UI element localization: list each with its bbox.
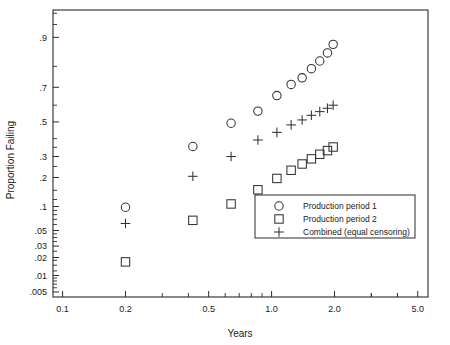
data-point-plus <box>286 120 296 130</box>
y-tick-label: .03 <box>34 241 47 251</box>
y-tick-label: .5 <box>39 117 47 127</box>
y-tick-label: .01 <box>34 271 47 281</box>
probability-plot-figure: 0.10.20.51.02.05.0.9.7.5.3.2.1.05.03.02.… <box>0 0 450 345</box>
data-point-square <box>121 258 129 266</box>
data-point-square <box>329 143 337 151</box>
y-tick-label: .005 <box>29 287 47 297</box>
data-point-square <box>273 174 281 182</box>
y-tick-label: .9 <box>39 33 47 43</box>
data-point-square <box>323 146 331 154</box>
data-point-circle <box>316 57 324 65</box>
y-tick-label: .02 <box>34 253 47 263</box>
data-point-square <box>287 166 295 174</box>
data-point-circle <box>307 64 315 72</box>
y-tick-label: .05 <box>34 226 47 236</box>
data-point-plus <box>226 152 236 162</box>
x-tick-label: 5.0 <box>411 304 424 314</box>
legend-label: Production period 2 <box>303 214 377 224</box>
data-point-square <box>307 155 315 163</box>
data-point-circle <box>189 142 197 150</box>
data-point-circle <box>298 74 306 82</box>
data-point-circle <box>323 49 331 57</box>
data-point-plus <box>121 219 131 229</box>
data-point-square <box>189 216 197 224</box>
x-tick-label: 0.1 <box>56 304 69 314</box>
data-point-square <box>254 186 262 194</box>
axis-layer: 0.10.20.51.02.05.0.9.7.5.3.2.1.05.03.02.… <box>29 10 428 314</box>
data-point-circle <box>121 203 129 211</box>
y-tick-label: .3 <box>39 152 47 162</box>
x-tick-label: 1.0 <box>265 304 278 314</box>
y-tick-label: .2 <box>39 173 47 183</box>
data-point-plus <box>297 115 307 125</box>
x-axis-title: Years <box>227 328 252 339</box>
data-point-circle <box>227 119 235 127</box>
data-point-circle <box>273 91 281 99</box>
series-circle <box>121 40 337 211</box>
data-point-plus <box>188 172 198 182</box>
legend-label: Combined (equal censoring) <box>303 227 410 237</box>
data-point-plus <box>272 128 282 138</box>
x-tick-label: 0.5 <box>202 304 215 314</box>
data-point-square <box>316 150 324 158</box>
data-point-square <box>298 160 306 168</box>
data-point-circle <box>287 80 295 88</box>
y-tick-label: .1 <box>39 202 47 212</box>
data-point-circle <box>329 40 337 48</box>
data-point-plus <box>253 135 263 145</box>
legend: Production period 1Production period 2Co… <box>255 195 415 238</box>
x-tick-label: 0.2 <box>119 304 132 314</box>
data-point-square <box>227 200 235 208</box>
y-axis-title: Proportion Failing <box>5 121 16 199</box>
y-tick-label: .7 <box>39 83 47 93</box>
legend-label: Production period 1 <box>303 201 377 211</box>
scatter-plot-svg: 0.10.20.51.02.05.0.9.7.5.3.2.1.05.03.02.… <box>0 0 450 345</box>
data-point-plus <box>307 110 317 120</box>
plot-frame <box>53 10 428 297</box>
data-point-circle <box>254 107 262 115</box>
x-tick-label: 2.0 <box>328 304 341 314</box>
